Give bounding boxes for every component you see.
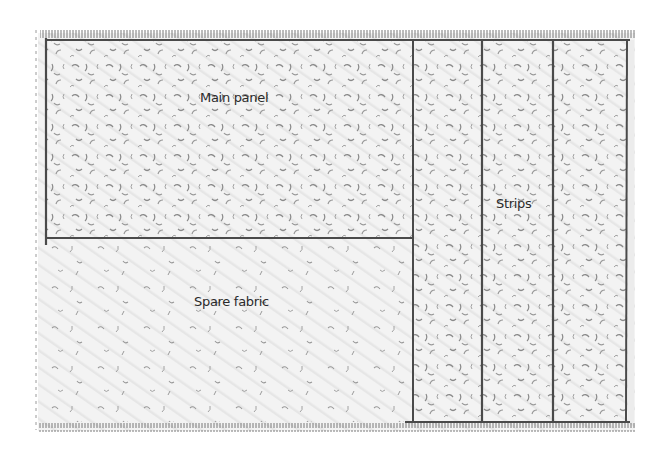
- main-panel-region: [46, 40, 413, 238]
- diagram-canvas: [0, 0, 669, 458]
- bottom-selvedge-fringe: [38, 423, 635, 432]
- strip-region-3: [554, 40, 626, 422]
- fabric-cutting-diagram: Main panel Spare fabric Strips: [0, 0, 669, 458]
- strip-region-2: [483, 40, 552, 422]
- spare-fabric-label: Spare fabric: [194, 294, 269, 309]
- spare-fabric-region: [40, 240, 412, 422]
- main-panel-label: Main panel: [200, 90, 268, 105]
- strip-region-1: [414, 40, 482, 422]
- strips-label: Strips: [496, 196, 532, 211]
- top-selvedge-fringe: [40, 29, 635, 38]
- strip-line-4: [626, 40, 627, 422]
